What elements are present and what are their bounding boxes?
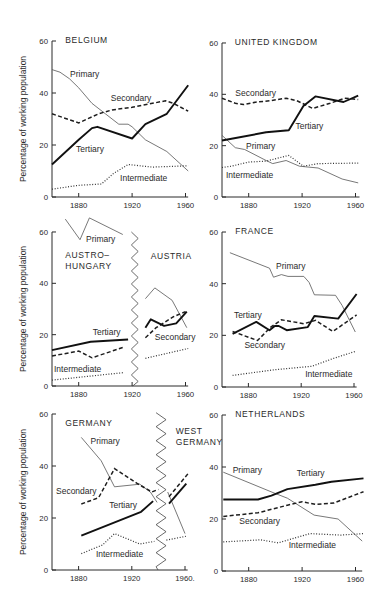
- x-tick-label: 1960.: [175, 574, 195, 583]
- x-tick-label: 1920: [293, 575, 311, 584]
- x-tick-label: 1880: [240, 575, 258, 584]
- series-label-primary: Primary: [91, 436, 121, 446]
- y-axis-label: Percentage of working population: [18, 56, 28, 182]
- figure-background: [0, 0, 384, 610]
- y-tick-label: 40: [39, 462, 48, 471]
- panel-title: FRANCE: [235, 226, 274, 236]
- y-tick-label: 0: [44, 566, 49, 575]
- x-tick-label: 1880: [240, 201, 258, 210]
- series-label-secondary: Secondary: [155, 332, 196, 342]
- y-tick-label: 0: [214, 567, 219, 576]
- y-tick-label: 20: [39, 331, 48, 340]
- y-tick-label: 60: [209, 39, 218, 48]
- series-label-primary: Primary: [276, 261, 306, 271]
- x-tick-label: 1880: [240, 391, 258, 400]
- series-label-tertiary: Tertiary: [234, 310, 263, 320]
- series-label-intermediate: Intermediate: [96, 549, 144, 559]
- figure: 0204060188019201960Percentage of working…: [0, 0, 384, 610]
- series-label-tertiary: Tertiary: [93, 327, 122, 337]
- series-label-intermediate: Intermediate: [305, 369, 353, 379]
- panel-title: GERMANY: [65, 418, 112, 428]
- panel-title: WEST: [176, 426, 203, 436]
- x-tick-label: 1880: [70, 574, 88, 583]
- series-label-primary: Primary: [86, 234, 116, 244]
- y-tick-label: 40: [209, 463, 218, 472]
- series-label-tertiary: Tertiary: [297, 468, 326, 478]
- x-tick-label: 1960: [177, 390, 195, 399]
- x-tick-label: 1920: [293, 391, 311, 400]
- y-axis-label: Percentage of working population: [18, 429, 28, 555]
- series-label-intermediate: Intermediate: [120, 173, 168, 183]
- panel-title: NETHERLANDS: [235, 409, 305, 419]
- series-label-intermediate: Intermediate: [54, 364, 102, 374]
- panel-title: HUNGARY: [65, 261, 112, 271]
- y-tick-label: 20: [209, 142, 218, 151]
- x-tick-label: 1960: [177, 201, 195, 210]
- y-tick-label: 60: [39, 228, 48, 237]
- x-tick-label: 1880: [70, 201, 88, 210]
- y-axis-label: Percentage of working population: [18, 246, 28, 372]
- x-tick-label: 1920: [123, 390, 141, 399]
- panel-title: BELGIUM: [65, 35, 107, 45]
- y-tick-label: 60: [39, 37, 48, 46]
- x-tick-label: 1880: [70, 390, 88, 399]
- y-tick-label: 0: [44, 193, 49, 202]
- x-tick-label: 1920: [293, 201, 311, 210]
- y-tick-label: 0: [214, 383, 219, 392]
- x-tick-label: 1960: [347, 575, 365, 584]
- series-label-secondary: Secondary: [111, 93, 152, 103]
- y-tick-label: 20: [39, 514, 48, 523]
- y-tick-label: 60: [209, 411, 218, 420]
- series-label-secondary: Secondary: [235, 88, 276, 98]
- series-label-secondary: Secondary: [239, 516, 280, 526]
- y-tick-label: 20: [209, 515, 218, 524]
- y-tick-label: 40: [39, 89, 48, 98]
- y-tick-label: 20: [39, 141, 48, 150]
- y-tick-label: 60: [39, 410, 48, 419]
- panel-title: AUSTRIA: [151, 251, 192, 261]
- x-tick-label: 1960: [347, 201, 365, 210]
- y-tick-label: 0: [214, 193, 219, 202]
- series-label-primary: Primary: [70, 69, 100, 79]
- y-tick-label: 40: [209, 280, 218, 289]
- y-tick-label: 60: [209, 228, 218, 237]
- panel-title: UNITED KINGDOM: [235, 37, 318, 47]
- series-label-intermediate: Intermediate: [289, 540, 337, 550]
- series-label-primary: Primary: [246, 141, 276, 151]
- y-tick-label: 20: [209, 331, 218, 340]
- series-label-tertiary: Tertiary: [109, 500, 138, 510]
- x-tick-label: 1920: [123, 574, 141, 583]
- y-tick-label: 40: [39, 279, 48, 288]
- y-tick-label: 0: [44, 382, 49, 391]
- panel-title: AUSTRO–: [65, 250, 109, 260]
- series-label-tertiary: Tertiary: [295, 121, 324, 131]
- x-tick-label: 1960: [345, 391, 363, 400]
- x-tick-label: 1920: [123, 201, 141, 210]
- series-label-intermediate: Intermediate: [226, 170, 274, 180]
- series-label-tertiary: Tertiary: [76, 144, 105, 154]
- series-label-secondary: Secondary: [56, 486, 97, 496]
- series-label-primary: Primary: [233, 465, 263, 475]
- panel-title: GERMANY: [176, 437, 223, 447]
- y-tick-label: 40: [209, 90, 218, 99]
- series-label-secondary: Secondary: [244, 340, 285, 350]
